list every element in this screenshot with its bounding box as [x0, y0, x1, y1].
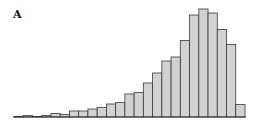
- histogram-bar: [143, 83, 152, 117]
- histogram-bar: [97, 108, 106, 118]
- histogram-bar: [106, 104, 115, 117]
- histogram-bar: [236, 105, 245, 118]
- histogram-bar: [162, 61, 171, 117]
- histogram-bar: [217, 30, 226, 118]
- histogram-bar: [88, 109, 97, 117]
- histogram-bar: [208, 13, 217, 117]
- histogram: [0, 0, 262, 132]
- histogram-bar: [171, 57, 180, 117]
- histogram-bar: [134, 93, 143, 118]
- histogram-bar: [125, 94, 134, 117]
- histogram-bar: [180, 41, 189, 118]
- histogram-bar: [153, 73, 162, 117]
- histogram-bar: [116, 103, 125, 118]
- histogram-bar: [199, 9, 208, 117]
- histogram-bar: [51, 114, 60, 118]
- histogram-bar: [69, 111, 78, 117]
- histogram-bar: [190, 15, 199, 117]
- histogram-bar: [79, 111, 88, 117]
- histogram-bars: [14, 9, 245, 117]
- histogram-bar: [227, 45, 236, 118]
